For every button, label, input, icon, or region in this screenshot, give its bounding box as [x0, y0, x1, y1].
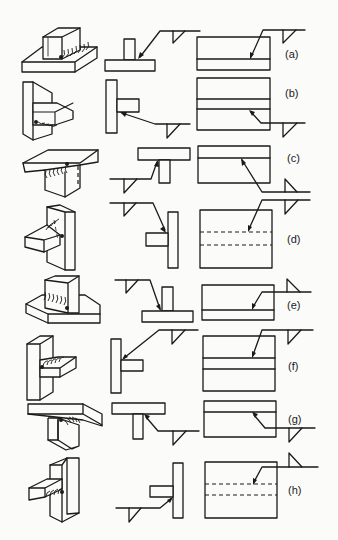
row-e: (e)	[26, 276, 311, 323]
fillet-weld-symbol-icon	[173, 431, 186, 445]
isometric-view-f	[27, 336, 76, 400]
row-d: (d)	[25, 200, 310, 270]
section-view-c	[110, 148, 190, 193]
section-view-e	[115, 280, 193, 322]
fillet-weld-symbol-icon	[287, 279, 300, 292]
fillet-weld-symbol-icon	[283, 123, 297, 137]
fillet-weld-symbol-icon	[289, 428, 302, 442]
row-label-d: (d)	[287, 233, 300, 245]
fillet-weld-symbol-icon	[288, 330, 301, 344]
fillet-weld-symbol-icon	[124, 203, 136, 216]
isometric-view-h	[29, 458, 79, 522]
fillet-weld-symbol-icon	[126, 280, 138, 293]
row-label-f: (f)	[288, 360, 298, 372]
row-label-g: (g)	[288, 413, 301, 425]
section-view-b	[106, 80, 190, 138]
isometric-view-d	[25, 205, 75, 270]
row-g: (g)	[28, 401, 315, 450]
fillet-weld-symbol-icon	[167, 124, 180, 138]
fillet-weld-symbol-icon	[283, 30, 296, 43]
isometric-view-b	[23, 82, 73, 140]
row-label-b: (b)	[285, 87, 298, 99]
isometric-view-e	[26, 276, 100, 323]
row-h: (h)	[29, 453, 318, 522]
fillet-weld-symbol-icon	[285, 200, 298, 214]
section-view-f	[111, 330, 198, 393]
fillet-weld-symbol-icon	[285, 179, 297, 192]
row-label-a: (a)	[285, 48, 298, 60]
row-label-e: (e)	[287, 299, 300, 311]
row-b: (b)	[23, 78, 305, 140]
section-view-g	[112, 403, 199, 445]
row-f: (f)	[27, 330, 313, 400]
fillet-weld-symbol-icon	[172, 330, 185, 344]
row-c: (c)	[23, 146, 310, 197]
fillet-weld-symbol-icon	[289, 453, 302, 467]
fillet-weld-symbol-icon	[129, 508, 141, 522]
row-a: (a)	[22, 28, 305, 72]
section-view-a	[105, 31, 200, 71]
fillet-weld-symbol-diagram: (a) (b)	[0, 0, 338, 540]
isometric-view-g	[28, 404, 102, 450]
section-view-h	[116, 463, 183, 522]
row-label-h: (h)	[288, 484, 301, 496]
fillet-weld-symbol-icon	[124, 179, 137, 193]
row-label-c: (c)	[287, 152, 300, 164]
fillet-weld-symbol-icon	[173, 31, 185, 43]
isometric-view-c	[23, 150, 98, 197]
isometric-view-a	[22, 28, 97, 72]
section-view-d	[110, 203, 178, 268]
